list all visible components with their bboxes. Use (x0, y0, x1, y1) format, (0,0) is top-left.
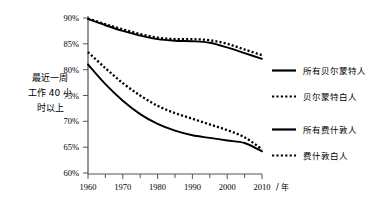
y-axis-caption-line2: 工作 40 小 (28, 87, 72, 98)
legend-label-1: 贝尔蒙特白人 (303, 92, 357, 102)
line-chart: 90% 85% 80% 75% 70% 65% 60% 1960 1970 19… (0, 0, 374, 212)
legend-label-2: 所有费什敦人 (303, 125, 357, 135)
legend-label-3: 费什敦白人 (303, 151, 348, 161)
y-tick-label-60: 60% (63, 168, 79, 178)
x-tick-label-2010: 2010 (254, 182, 271, 192)
x-axis-unit-label: / 年 (276, 182, 289, 192)
legend-label-0: 所有贝尔蒙特人 (303, 66, 366, 76)
y-tick-label-85: 85% (63, 39, 79, 49)
x-tick-label-1970: 1970 (114, 182, 131, 192)
y-tick-label-65: 65% (63, 142, 79, 152)
y-tick-label-70: 70% (63, 116, 79, 126)
y-axis-caption-line1: 最近一周 (32, 72, 68, 83)
y-axis-caption-line3: 时以上 (37, 102, 64, 113)
x-tick-label-1980: 1980 (149, 182, 166, 192)
x-tick-label-2000: 2000 (219, 182, 236, 192)
x-tick-label-1960: 1960 (80, 182, 97, 192)
chart-root: 90% 85% 80% 75% 70% 65% 60% 1960 1970 19… (0, 0, 374, 212)
y-tick-label-90: 90% (63, 13, 79, 23)
x-tick-label-1990: 1990 (184, 182, 201, 192)
